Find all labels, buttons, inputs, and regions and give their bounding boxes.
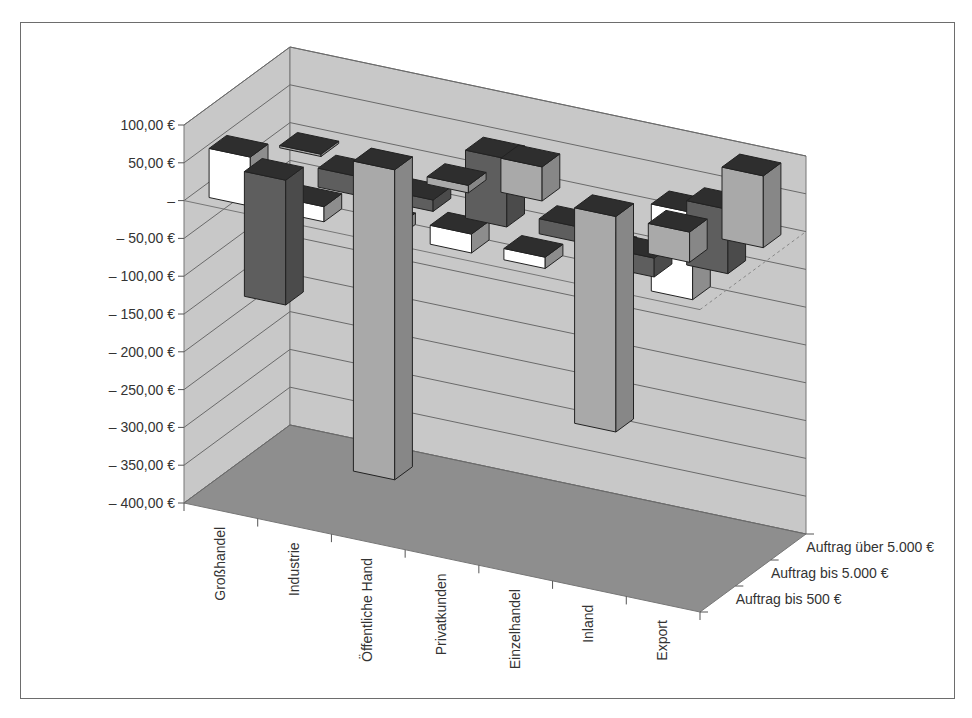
category-label: Export — [654, 620, 670, 661]
y-tick-label: 100,00 € — [121, 117, 176, 133]
y-tick-label: – 300,00 € — [109, 419, 175, 435]
y-tick-label: – 400,00 € — [109, 495, 175, 511]
y-tick-label: – 100,00 € — [109, 268, 175, 284]
category-label: Industrie — [286, 542, 302, 596]
series-label: Auftrag bis 500 € — [736, 591, 842, 607]
y-tick-label: – — [167, 193, 175, 209]
category-label: Inland — [580, 605, 596, 643]
category-label: Öffentliche Hand — [358, 558, 375, 662]
y-tick-label: 50,00 € — [128, 155, 175, 171]
chart-3d-column: 100,00 €50,00 €–– 50,00 €– 100,00 €– 150… — [0, 0, 972, 718]
bar — [575, 195, 634, 432]
bar — [648, 210, 707, 262]
bar — [722, 154, 781, 248]
category-label: Großhandel — [212, 527, 228, 601]
series-label: Auftrag bis 5.000 € — [771, 565, 889, 581]
series-label: Auftrag über 5.000 € — [806, 539, 934, 555]
y-tick-label: – 350,00 € — [109, 457, 175, 473]
y-tick-label: – 250,00 € — [109, 382, 175, 398]
bar — [244, 159, 303, 306]
y-axis: 100,00 €50,00 €–– 50,00 €– 100,00 €– 150… — [109, 117, 184, 511]
category-label: Privatkunden — [433, 574, 449, 656]
bar — [353, 148, 412, 480]
y-tick-label: – 50,00 € — [117, 230, 176, 246]
y-tick-label: – 150,00 € — [109, 306, 175, 322]
category-label: Einzelhandel — [507, 589, 523, 669]
y-tick-label: – 200,00 € — [109, 344, 175, 360]
bar — [501, 145, 560, 201]
